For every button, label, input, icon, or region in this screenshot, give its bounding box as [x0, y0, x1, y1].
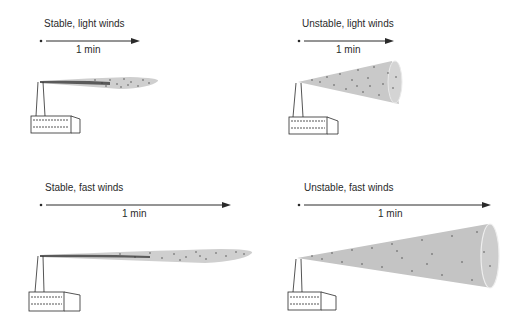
stable-light-plume-drawing — [0, 0, 262, 164]
factory-icon — [31, 82, 80, 133]
plume-icon — [297, 224, 492, 288]
origin-dot-icon — [40, 40, 43, 43]
panel-unstable-light-winds: Unstable, light winds 1 min — [262, 0, 524, 164]
unstable-fast-plume-drawing — [262, 164, 524, 328]
panel-stable-light-winds: Stable, light winds 1 min — [0, 0, 262, 164]
unstable-light-plume-drawing — [262, 0, 524, 164]
factory-icon — [289, 83, 338, 134]
panel-stable-fast-winds: Stable, fast winds 1 min — [0, 164, 262, 328]
origin-dot-icon — [40, 204, 43, 207]
plume-icon — [298, 61, 399, 104]
stable-fast-plume-drawing — [0, 164, 262, 328]
factory-icon — [29, 256, 80, 311]
panel-unstable-fast-winds: Unstable, fast winds 1 min — [262, 164, 524, 328]
factory-icon — [288, 259, 336, 310]
origin-dot-icon — [298, 40, 301, 43]
origin-dot-icon — [298, 204, 301, 207]
